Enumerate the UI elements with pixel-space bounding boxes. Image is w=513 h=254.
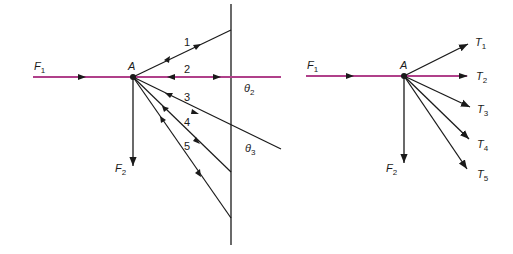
ray-3-arrow-out-icon xyxy=(191,109,199,114)
ray-1 xyxy=(133,30,231,77)
f1-arrow-right-icon xyxy=(346,73,354,79)
t5-line xyxy=(404,76,467,169)
label-f2-left: F2 xyxy=(115,162,127,177)
label-a-left: A xyxy=(127,60,135,72)
t4-line xyxy=(404,76,469,139)
label-t1: T1 xyxy=(475,36,487,51)
t2-arrow-icon xyxy=(459,73,468,79)
left-diagram: A F1 F2 1 2 3 4 5 θ2 θ3 xyxy=(33,4,281,245)
label-ray-1: 1 xyxy=(184,36,190,48)
point-a-right xyxy=(401,73,407,79)
label-t4: T4 xyxy=(477,138,489,153)
label-theta-2: θ2 xyxy=(244,82,255,97)
f1-arrow-icon xyxy=(78,74,86,80)
ray-5 xyxy=(133,77,231,218)
label-t3: T3 xyxy=(477,103,489,118)
label-f1-left: F1 xyxy=(34,60,46,75)
right-diagram: A F1 F2 T1 T2 T3 T4 T5 xyxy=(306,36,489,183)
point-a xyxy=(130,74,136,80)
label-ray-5: 5 xyxy=(184,140,190,152)
ray-2-arrow-in-icon xyxy=(167,74,175,80)
label-f2-right: F2 xyxy=(386,162,398,177)
label-ray-2: 2 xyxy=(184,63,190,75)
ray-5-arrow-in-icon xyxy=(160,116,166,123)
label-theta-3: θ3 xyxy=(245,142,256,157)
t1-line xyxy=(404,44,468,76)
force-diagram: A F1 F2 1 2 3 4 5 θ2 θ3 A F1 F2 T1 T2 T3… xyxy=(0,0,513,254)
ray-3 xyxy=(133,77,281,149)
label-ray-3: 3 xyxy=(184,91,190,103)
label-f1-right: F1 xyxy=(307,59,319,74)
label-t5: T5 xyxy=(477,168,489,183)
ray-4 xyxy=(133,77,231,172)
ray-2-arrow-out-icon xyxy=(213,74,221,80)
label-t2: T2 xyxy=(476,70,488,85)
label-ray-4: 4 xyxy=(184,116,190,128)
label-a-right: A xyxy=(399,59,407,71)
